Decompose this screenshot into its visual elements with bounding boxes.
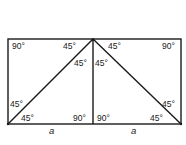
outer-rectangle <box>8 39 181 124</box>
angle-label-bottom-right-upper: 45° <box>162 99 175 109</box>
angle-label-right-apex-inner: 45° <box>95 58 108 68</box>
angle-label-right-apex-outer: 45° <box>108 41 121 51</box>
angle-label-left-apex-inner: 45° <box>74 58 87 68</box>
angle-label-bottom-center-left: 90° <box>73 113 86 123</box>
angle-label-left-apex-outer: 45° <box>63 41 76 51</box>
angle-label-bottom-center-right: 90° <box>97 113 110 123</box>
angle-label-bottom-right-lower: 45° <box>150 113 163 123</box>
angle-label-bottom-left-upper: 45° <box>10 99 23 109</box>
side-label-left-base: a <box>49 125 54 136</box>
bottom-right-point <box>180 123 182 125</box>
diagonal-right <box>93 39 181 124</box>
side-labels: a a <box>49 125 136 136</box>
bottom-left-point <box>7 123 9 125</box>
angle-label-top-left-corner: 90° <box>12 41 25 51</box>
geometry-diagram: 90° 45° 45° 45° 45° 90° 45° 45° 90° 90° … <box>0 0 186 145</box>
side-label-right-base: a <box>131 125 136 136</box>
angle-label-top-right-corner: 90° <box>162 41 175 51</box>
apex-point <box>92 38 95 41</box>
angle-label-bottom-left-lower: 45° <box>21 113 34 123</box>
diagonal-left <box>8 39 93 124</box>
